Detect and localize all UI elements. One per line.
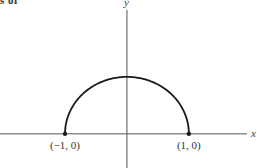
semicircle-plot: x y (−1, 0)(1, 0) [0,0,257,168]
y-axis-label: y [123,0,129,8]
endpoint-marker [187,132,191,136]
x-axis-label: x [250,127,256,139]
endpoint-label: (1, 0) [177,139,201,152]
endpoint-marker [63,132,67,136]
endpoint-label: (−1, 0) [50,139,80,152]
